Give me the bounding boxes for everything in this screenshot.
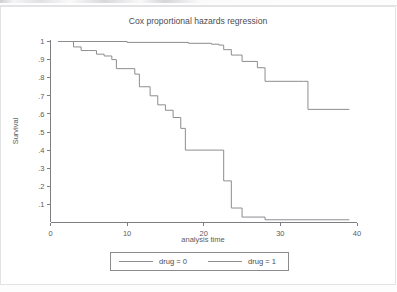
- y-axis-title: Survival: [11, 117, 20, 144]
- cox-survival-chart: Cox proportional hazards regression .1.2…: [0, 0, 397, 292]
- y-tick-label: .9: [38, 55, 44, 64]
- y-tick-label: .5: [38, 128, 44, 137]
- chart-page: Cox proportional hazards regression .1.2…: [0, 0, 397, 292]
- x-axis-title: analysis time: [181, 235, 224, 244]
- y-tick-label: .3: [38, 164, 44, 173]
- series-line-drug-0: [58, 42, 349, 220]
- y-tick-label: .4: [38, 146, 44, 155]
- y-tick-label: 1: [40, 37, 44, 46]
- x-tick-label: 0: [48, 229, 52, 238]
- chart-legend: drug = 0 drug = 1: [111, 253, 289, 271]
- x-tick-label: 40: [353, 229, 361, 238]
- legend-label-drug-0: drug = 0: [159, 257, 187, 266]
- y-tick-label: .8: [38, 73, 44, 82]
- x-tick-label: 10: [123, 229, 131, 238]
- series-group: [58, 42, 349, 220]
- y-tick-label: .6: [38, 110, 44, 119]
- chart-title: Cox proportional hazards regression: [129, 16, 268, 26]
- y-tick-label: .7: [38, 92, 44, 101]
- y-tick-label: .1: [38, 200, 44, 209]
- legend-label-drug-1: drug = 1: [248, 257, 276, 266]
- x-tick-label: 30: [276, 229, 284, 238]
- y-tick-label: .2: [38, 182, 44, 191]
- series-line-drug-1: [58, 42, 349, 110]
- y-axis-ticks: .1.2.3.4.5.6.7.8.91: [38, 37, 50, 209]
